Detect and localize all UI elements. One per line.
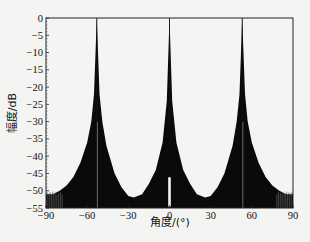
y-tick-label: −5: [32, 30, 43, 41]
x-tick-label: 90: [288, 210, 299, 221]
y-tick-label: −30: [27, 116, 43, 127]
y-tick-label: −50: [27, 185, 43, 196]
x-tick-label: 30: [205, 210, 216, 221]
y-tick-label: 0: [38, 13, 43, 24]
y-tick-label: −40: [27, 151, 43, 162]
center-notch: [168, 177, 171, 207]
y-tick-label: −10: [27, 47, 43, 58]
pattern-fill: [46, 18, 293, 208]
x-tick-label: −30: [120, 210, 136, 221]
y-tick-label: −35: [27, 133, 43, 144]
x-tick-label: −90: [38, 210, 54, 221]
y-tick-label: −15: [27, 64, 43, 75]
x-axis-title: 角度/(°): [150, 215, 190, 229]
y-tick-label: −20: [27, 82, 43, 93]
beam-pattern-chart: 0−5−10−15−20−25−30−35−40−45−50−55 −90−60…: [0, 0, 310, 242]
x-tick-label: 60: [247, 210, 258, 221]
y-axis-title: 幅度/dB: [5, 93, 19, 133]
y-tick-label: −45: [27, 168, 43, 179]
x-tick-label: −60: [79, 210, 95, 221]
y-tick-label: −25: [27, 99, 43, 110]
